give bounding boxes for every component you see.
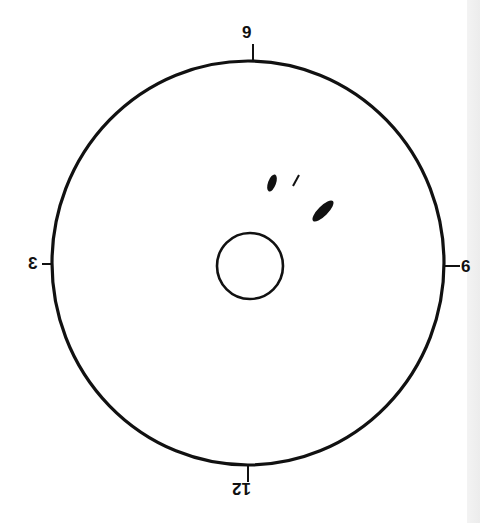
large-ellipse-mark (310, 198, 337, 225)
label-left: 3 (28, 255, 37, 272)
center-hole (217, 233, 283, 299)
dash-mark (293, 175, 299, 186)
dial-diagram: 9 12 3 6 (0, 0, 480, 523)
dial-graphic (0, 0, 480, 523)
label-bottom: 12 (232, 480, 251, 497)
label-right: 6 (461, 258, 470, 275)
small-ellipse-mark (265, 173, 279, 193)
outer-circle (52, 61, 444, 465)
label-top: 9 (242, 24, 251, 41)
